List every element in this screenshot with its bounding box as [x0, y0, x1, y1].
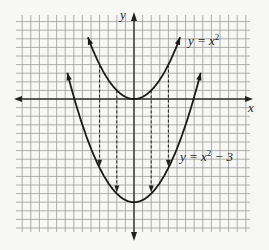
x-axis-label: x — [248, 100, 254, 116]
curve-label-upper: y = x2 — [188, 32, 219, 49]
curve-label-lower: y = x2 − 3 — [180, 148, 233, 165]
coordinate-plane — [0, 0, 269, 250]
y-axis-label: y — [120, 7, 126, 23]
graph-figure: y x y = x2 y = x2 − 3 — [0, 0, 269, 250]
